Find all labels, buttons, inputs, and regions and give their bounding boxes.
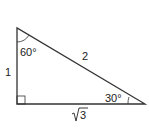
right-angle-marker [17, 96, 25, 104]
triangle [17, 28, 145, 104]
angle-label-60: 60° [20, 46, 37, 58]
angle-arc-30 [128, 97, 129, 104]
bottom-side-label: 3 [72, 108, 88, 121]
triangle-diagram: 60° 2 1 30° 3 [0, 0, 149, 128]
side-label-left: 1 [5, 66, 11, 78]
angle-arc-60 [17, 35, 29, 42]
hypotenuse-label: 2 [82, 50, 88, 62]
angle-label-30: 30° [105, 92, 122, 104]
radicand: 3 [80, 109, 86, 121]
